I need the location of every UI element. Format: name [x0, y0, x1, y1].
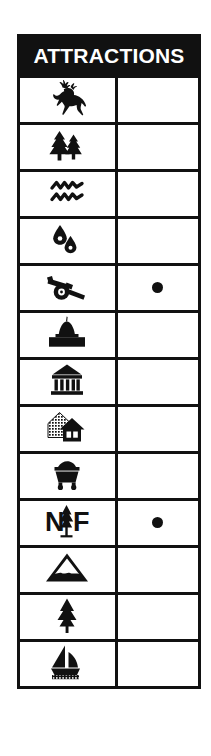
attractions-legend-table: ATTRACTIONS	[17, 34, 201, 689]
mark-cell	[116, 312, 199, 359]
attractions-legend-sheet: ATTRACTIONS	[0, 0, 211, 756]
symbol-cell-pine-trees	[19, 124, 117, 171]
mark-cell	[116, 547, 199, 594]
mark-cell	[116, 453, 199, 500]
page-title: ATTRACTIONS	[20, 37, 198, 75]
table-row: N F	[19, 500, 200, 547]
single-tree-icon	[40, 595, 94, 635]
status-badge	[152, 282, 163, 293]
svg-text:N: N	[45, 507, 65, 537]
table-row	[19, 124, 200, 171]
symbol-cell-cannon	[19, 265, 117, 312]
mark-cell	[116, 594, 199, 641]
museum-icon	[40, 360, 94, 400]
mark-cell	[116, 77, 199, 124]
capitol-building-icon	[40, 313, 94, 353]
symbol-cell-mountain	[19, 547, 117, 594]
symbol-cell-capitol-building	[19, 312, 117, 359]
mark-cell	[116, 641, 199, 688]
symbol-cell-national-forest: N F	[19, 500, 117, 547]
mark-cell	[116, 406, 199, 453]
sailboat-icon	[40, 642, 94, 682]
deer-icon	[40, 78, 94, 118]
water-drops-icon	[40, 219, 94, 259]
table-row	[19, 641, 200, 688]
mark-cell	[116, 218, 199, 265]
symbol-cell-historic-houses	[19, 406, 117, 453]
mark-cell	[116, 124, 199, 171]
mark-cell	[116, 359, 199, 406]
ore-cart-icon	[40, 454, 94, 494]
symbol-cell-museum	[19, 359, 117, 406]
mountain-icon	[40, 548, 94, 588]
symbol-cell-water-waves	[19, 171, 117, 218]
table-row	[19, 594, 200, 641]
mark-cell	[116, 265, 199, 312]
pine-trees-icon	[40, 125, 94, 165]
table-row	[19, 547, 200, 594]
status-badge	[152, 517, 163, 528]
table-row	[19, 359, 200, 406]
svg-text:F: F	[73, 507, 90, 537]
cannon-icon	[40, 266, 94, 306]
table-row	[19, 77, 200, 124]
mark-cell	[116, 500, 199, 547]
table-row	[19, 312, 200, 359]
symbol-cell-ore-cart	[19, 453, 117, 500]
legend-title-cell: ATTRACTIONS	[19, 36, 200, 77]
table-row	[19, 453, 200, 500]
water-waves-icon	[40, 172, 94, 212]
symbol-cell-sailboat	[19, 641, 117, 688]
symbol-cell-single-tree	[19, 594, 117, 641]
symbol-cell-water-drops	[19, 218, 117, 265]
mark-cell	[116, 171, 199, 218]
table-row	[19, 406, 200, 453]
table-row	[19, 218, 200, 265]
national-forest-icon: N F	[40, 501, 94, 541]
table-row	[19, 171, 200, 218]
table-row	[19, 265, 200, 312]
symbol-cell-deer	[19, 77, 117, 124]
legend-header-row: ATTRACTIONS	[19, 36, 200, 77]
historic-houses-icon	[40, 407, 94, 447]
